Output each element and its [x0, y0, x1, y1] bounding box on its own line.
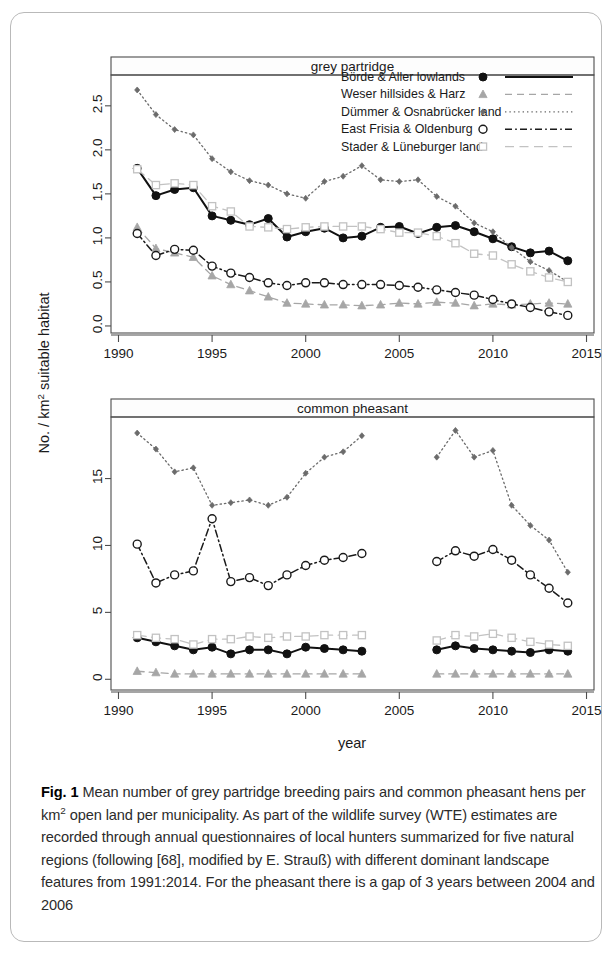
data-point-open-circle — [358, 281, 366, 289]
data-point-small-diamond — [546, 267, 551, 273]
data-point-open-circle — [302, 279, 310, 287]
data-point-open-square — [265, 224, 272, 231]
data-point-open-square — [377, 225, 384, 232]
legend-label-1: Weser hillsides & Harz — [341, 87, 465, 101]
data-point-small-diamond — [546, 537, 551, 543]
figure-caption: Fig. 1 Mean number of grey partridge bre… — [41, 781, 605, 917]
data-point-open-circle — [451, 547, 459, 555]
data-point-filled-circle — [283, 233, 291, 241]
data-point-open-circle — [526, 303, 534, 311]
data-point-open-circle — [227, 269, 235, 277]
data-point-open-circle — [152, 252, 160, 260]
x-tick-label: 1995 — [197, 346, 227, 361]
data-point-filled-circle — [451, 222, 459, 230]
legend-label-0: Börde & Aller lowlands — [341, 70, 465, 84]
data-point-open-square — [208, 636, 215, 643]
data-point-open-circle — [171, 571, 179, 579]
data-point-open-square — [246, 633, 253, 640]
data-point-open-square — [358, 632, 365, 639]
data-point-small-diamond — [266, 502, 271, 508]
data-point-open-square — [302, 224, 309, 231]
data-point-open-circle — [246, 574, 254, 582]
data-point-open-circle — [133, 540, 141, 548]
figure-chart-svg: grey partridge0.00.51.01.52.02.519901995… — [11, 13, 614, 778]
data-point-open-circle — [358, 550, 366, 558]
data-point-small-diamond — [266, 182, 271, 188]
data-point-open-circle — [508, 556, 516, 564]
data-point-open-square — [283, 633, 290, 640]
data-point-small-diamond — [341, 173, 346, 179]
data-point-filled-circle — [526, 649, 534, 657]
data-point-small-diamond — [135, 430, 140, 436]
series-filled-circle — [133, 634, 572, 658]
x-tick-label: 2005 — [384, 703, 414, 718]
data-point-filled-circle — [283, 650, 291, 658]
series-group-bottom — [133, 427, 572, 677]
data-point-filled-circle — [208, 212, 216, 220]
legend-label-3: East Frisia & Oldenburg — [341, 122, 473, 136]
data-point-open-circle — [564, 599, 572, 607]
series-filled-circle — [133, 164, 572, 264]
data-point-open-circle — [320, 279, 328, 287]
data-point-filled-triangle — [339, 300, 347, 308]
data-point-filled-circle — [526, 249, 534, 257]
data-point-filled-circle — [339, 234, 347, 242]
data-point-open-circle — [189, 246, 197, 254]
legend: Börde & Aller lowlandsWeser hillsides & … — [341, 70, 573, 154]
data-point-open-circle — [377, 281, 385, 289]
series-open-circle — [133, 229, 572, 319]
data-point-small-diamond — [228, 500, 233, 506]
figure-card: grey partridge0.00.51.01.52.02.519901995… — [10, 12, 602, 942]
data-point-filled-circle — [152, 192, 160, 200]
data-point-filled-circle — [451, 642, 459, 650]
data-point-small-diamond — [191, 132, 196, 138]
data-point-small-diamond — [359, 433, 364, 439]
data-point-open-square — [564, 642, 571, 649]
data-point-filled-triangle — [433, 298, 441, 306]
data-point-filled-triangle — [302, 300, 310, 308]
series-line — [137, 227, 568, 305]
data-point-open-circle — [302, 562, 310, 570]
data-point-filled-triangle — [133, 667, 141, 675]
data-point-open-square — [171, 636, 178, 643]
data-point-open-square — [479, 143, 486, 150]
data-point-filled-circle — [208, 643, 216, 651]
data-point-filled-triangle — [564, 670, 572, 678]
data-point-open-circle — [470, 552, 478, 560]
data-point-open-square — [489, 630, 496, 637]
data-point-open-square — [508, 634, 515, 641]
data-point-open-circle — [564, 311, 572, 319]
data-point-open-square — [265, 634, 272, 641]
data-point-small-diamond — [434, 454, 439, 460]
data-point-small-diamond — [472, 220, 477, 226]
data-point-small-diamond — [247, 178, 252, 184]
data-point-open-square — [171, 180, 178, 187]
data-point-open-circle — [264, 582, 272, 590]
data-point-open-square — [134, 166, 141, 173]
x-tick-label: 2010 — [478, 346, 508, 361]
data-point-open-square — [152, 634, 159, 641]
data-point-open-circle — [152, 579, 160, 587]
data-point-filled-circle — [358, 647, 366, 655]
y-axis-bottom: 051015 — [90, 469, 111, 681]
series-filled-triangle — [133, 223, 572, 309]
data-point-small-diamond — [135, 87, 140, 93]
data-point-open-circle — [489, 296, 497, 304]
data-point-open-square — [190, 181, 197, 188]
x-tick-label: 2015 — [571, 703, 601, 718]
data-point-open-square — [433, 233, 440, 240]
data-point-filled-triangle — [227, 280, 235, 288]
data-point-filled-circle — [470, 228, 478, 236]
axis-titles: yearNo. / km2 suitable habitat — [35, 292, 367, 751]
data-point-open-circle — [208, 515, 216, 523]
data-point-open-circle — [433, 558, 441, 566]
data-point-open-circle — [246, 274, 254, 282]
panel-title-bottom: common pheasant — [297, 401, 408, 416]
data-point-open-circle — [526, 571, 534, 579]
data-point-filled-triangle — [245, 286, 253, 294]
data-point-open-circle — [339, 281, 347, 289]
data-point-open-square — [340, 632, 347, 639]
data-point-open-square — [152, 181, 159, 188]
data-point-open-circle — [133, 229, 141, 237]
data-point-open-square — [134, 632, 141, 639]
